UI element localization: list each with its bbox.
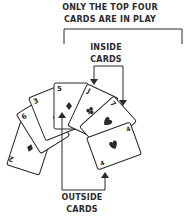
svg-text:5: 5 <box>57 85 62 93</box>
card-fan-diagram: 2 6 3 5 J 7 4 4 <box>0 0 188 220</box>
inside-arrowhead-j <box>90 79 98 85</box>
outside-arrowhead-4 <box>101 172 109 178</box>
top-bracket <box>64 29 182 44</box>
